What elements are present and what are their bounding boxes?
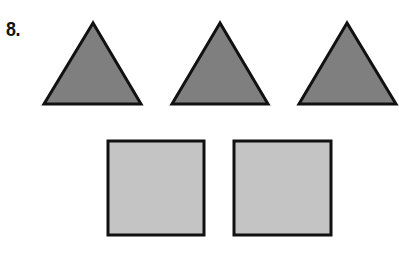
triangle-1 <box>44 23 141 104</box>
triangle-row <box>44 23 396 104</box>
square-2 <box>234 141 331 235</box>
triangle-2 <box>172 23 268 104</box>
square-1 <box>108 141 204 235</box>
triangle-3 <box>299 23 396 104</box>
shapes-figure <box>0 0 399 255</box>
square-row <box>108 141 331 235</box>
